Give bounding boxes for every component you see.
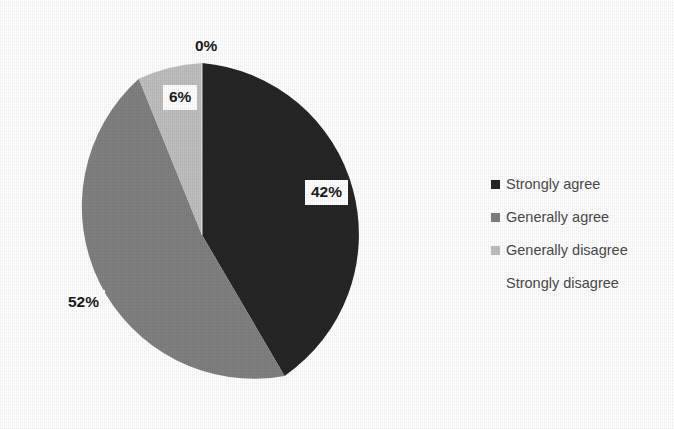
chart-page: 0% 6% 42% 52% Strongly agree Generally a… (0, 0, 674, 429)
legend-swatch-icon (491, 180, 500, 189)
legend-item-strongly-agree[interactable]: Strongly agree (491, 168, 671, 201)
legend-item-strongly-disagree[interactable]: Strongly disagree (491, 267, 671, 300)
legend-item-label: Generally agree (506, 210, 609, 225)
data-label-generally-disagree: 6% (163, 85, 197, 110)
legend-item-generally-disagree[interactable]: Generally disagree (491, 234, 671, 267)
legend-swatch-icon (491, 279, 500, 288)
legend-item-label: Generally disagree (506, 243, 628, 258)
legend-item-label: Strongly disagree (506, 276, 619, 291)
chart-legend: Strongly agree Generally agree Generally… (491, 168, 671, 300)
pie-chart (30, 63, 374, 407)
data-label-generally-agree: 52% (62, 290, 105, 315)
chart-title (60, 0, 620, 6)
legend-swatch-icon (491, 213, 500, 222)
legend-item-generally-agree[interactable]: Generally agree (491, 201, 671, 234)
data-label-strongly-disagree: 0% (195, 38, 217, 54)
data-label-strongly-agree: 42% (305, 180, 348, 205)
legend-swatch-icon (491, 246, 500, 255)
legend-item-label: Strongly agree (506, 177, 600, 192)
pie-chart-svg (30, 63, 374, 407)
